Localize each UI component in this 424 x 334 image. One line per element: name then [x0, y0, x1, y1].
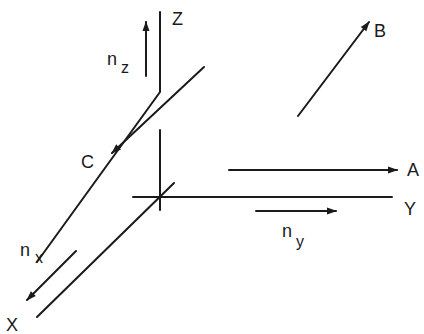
vector-b-arrow — [298, 22, 369, 116]
coordinate-diagram — [0, 0, 424, 334]
vector-a-label: A — [407, 161, 419, 179]
z-axis-label: Z — [172, 10, 183, 28]
vector-c-label: C — [81, 153, 94, 171]
nz-subscript: z — [121, 60, 129, 76]
ny-label: n — [282, 222, 292, 240]
c-guide-line — [112, 67, 204, 153]
nz-label: n — [107, 50, 117, 68]
x-axis-label: X — [6, 316, 18, 334]
nx-label: n — [20, 241, 30, 259]
nx-subscript: x — [35, 250, 43, 266]
ny-subscript: y — [296, 234, 304, 250]
vector-b-label: B — [374, 22, 386, 40]
y-axis-label: Y — [404, 200, 416, 218]
x-axis-line — [37, 183, 174, 317]
z-axis-upper-line — [37, 12, 160, 262]
